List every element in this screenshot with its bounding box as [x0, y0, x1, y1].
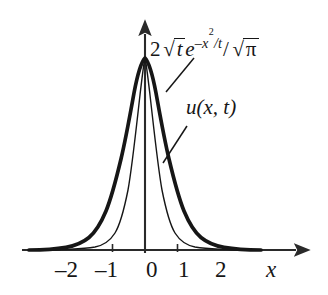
gaussian-formula-label: 2√te–x2/t/√π — [150, 27, 259, 60]
x-tick-label-neg1: –1 — [95, 258, 118, 281]
x-tick-label-zero: 0 — [146, 258, 158, 281]
solution-curve-label: u(x, t) — [186, 97, 236, 118]
x-tick-label-one: 1 — [178, 258, 190, 281]
sqrt-t-radical: √t — [161, 38, 186, 60]
formula-coefficient: 2 — [150, 37, 161, 61]
formula-divider-slash: / — [222, 37, 230, 61]
formula-exponent-minus: – — [195, 35, 202, 51]
x-tick-label-two: 2 — [215, 258, 227, 281]
formula-e: e — [185, 37, 195, 61]
sqrt-pi-radical: √π — [230, 38, 259, 60]
formula-exponent-x: x — [202, 35, 209, 51]
sqrt-pi-argument: π — [243, 38, 259, 60]
formula-exponent-over-t: /t — [214, 35, 222, 51]
formula-leader-line — [166, 58, 194, 92]
sqrt-t-argument: t — [174, 38, 185, 60]
x-tick-label-neg2: –2 — [55, 258, 78, 281]
x-axis-label: x — [266, 258, 276, 281]
gaussian-heat-kernel-figure: 2√te–x2/t/√π u(x, t) –2 –1 0 1 2 x — [0, 0, 328, 295]
